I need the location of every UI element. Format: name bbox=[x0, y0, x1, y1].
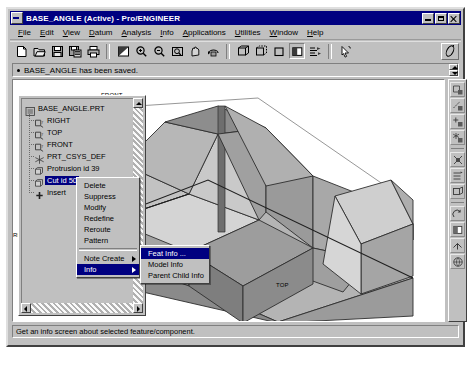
new-file-icon[interactable] bbox=[13, 43, 29, 59]
repaint-icon[interactable] bbox=[115, 43, 131, 59]
tree-item-protrusion[interactable]: Protrusion id 39 bbox=[25, 162, 129, 174]
tree-item-right[interactable]: 7 RIGHT bbox=[25, 114, 129, 126]
menu-info-rest: nfo bbox=[163, 28, 174, 37]
toolbar-group-select bbox=[334, 43, 356, 59]
menu-edit[interactable]: Edit bbox=[36, 27, 59, 38]
menu-utilities[interactable]: Utilities bbox=[231, 27, 266, 38]
context-menu-item-delete[interactable]: Delete bbox=[77, 180, 139, 191]
context-menu-separator bbox=[79, 248, 137, 251]
tree-item-label: RIGHT bbox=[45, 116, 70, 125]
open-folder-icon[interactable] bbox=[31, 43, 47, 59]
spin-icon[interactable] bbox=[205, 43, 221, 59]
context-menu-item-info[interactable]: Info bbox=[77, 264, 139, 275]
feature-icon bbox=[34, 163, 45, 174]
menu-datum-rest: atum bbox=[95, 28, 113, 37]
menu-analysis-rest: nalysis bbox=[127, 28, 151, 37]
save-icon[interactable] bbox=[49, 43, 65, 59]
tree-item-top[interactable]: 7 TOP bbox=[25, 126, 129, 138]
layer-icon[interactable] bbox=[307, 43, 323, 59]
context-menu-item-modify[interactable]: Modify bbox=[77, 202, 139, 213]
menu-applications-rest: pplications bbox=[188, 28, 226, 37]
scroll-up-arrow[interactable] bbox=[133, 98, 143, 108]
tree-item-front[interactable]: 7 FRONT bbox=[25, 138, 129, 150]
right-toolbar bbox=[448, 79, 467, 322]
toolbar-separator-2 bbox=[226, 44, 230, 59]
datum-csys-display-icon[interactable] bbox=[450, 130, 465, 145]
tree-item-label: Protrusion id 39 bbox=[45, 164, 100, 173]
submenu-label: Model Info bbox=[148, 260, 183, 269]
context-menu-label: Note Create bbox=[84, 254, 124, 263]
tree-item-label: Insert bbox=[45, 188, 66, 197]
menu-help[interactable]: Help bbox=[303, 27, 328, 38]
datum-plane-display-icon[interactable] bbox=[450, 82, 465, 97]
layer-display-icon[interactable] bbox=[450, 168, 465, 183]
environment-icon[interactable] bbox=[450, 254, 465, 269]
maximize-button[interactable] bbox=[435, 13, 447, 24]
scroll-right-arrow[interactable] bbox=[133, 303, 143, 313]
status-bar-text: Get an info screen about selected featur… bbox=[16, 327, 195, 336]
tree-guide bbox=[25, 150, 34, 162]
submenu-item-model-info[interactable]: Model Info bbox=[141, 259, 209, 270]
menu-window[interactable]: Window bbox=[266, 27, 303, 38]
context-menu-item-note-create[interactable]: Note Create bbox=[77, 253, 139, 264]
scroll-down-arrow[interactable] bbox=[449, 70, 458, 76]
minimize-button[interactable] bbox=[422, 13, 434, 24]
pen-annotate-icon[interactable] bbox=[441, 43, 459, 60]
right-toolbar-separator-1 bbox=[451, 148, 464, 149]
menu-view[interactable]: View bbox=[59, 27, 85, 38]
hidden-line-icon[interactable] bbox=[253, 43, 269, 59]
menu-info[interactable]: Info bbox=[156, 27, 178, 38]
menu-utilities-rest: tilities bbox=[241, 28, 261, 37]
system-menu-icon[interactable] bbox=[11, 12, 23, 24]
submenu-item-feat-info[interactable]: Feat Info ... bbox=[141, 248, 209, 259]
context-menu-item-reroute[interactable]: Reroute bbox=[77, 224, 139, 235]
scroll-left-arrow[interactable] bbox=[21, 303, 31, 313]
pan-icon[interactable] bbox=[187, 43, 203, 59]
toolbar-separator-3 bbox=[328, 44, 332, 59]
shade-view-icon[interactable] bbox=[450, 222, 465, 237]
save-as-icon[interactable] bbox=[67, 43, 83, 59]
menu-datum[interactable]: Datum bbox=[85, 27, 118, 38]
submenu-label: Feat Info ... bbox=[148, 249, 186, 258]
context-menu-item-suppress[interactable]: Suppress bbox=[77, 191, 139, 202]
saved-view-icon[interactable] bbox=[450, 184, 465, 199]
toolbar-separator-1 bbox=[106, 44, 110, 59]
zoom-window-icon[interactable] bbox=[169, 43, 185, 59]
svg-text:7: 7 bbox=[41, 144, 44, 149]
shading-icon[interactable] bbox=[289, 43, 305, 59]
feature-context-menu[interactable]: Delete Suppress Modify Redefine Reroute … bbox=[76, 177, 140, 278]
print-icon[interactable] bbox=[85, 43, 101, 59]
info-submenu[interactable]: Feat Info ... Model Info Parent Child In… bbox=[140, 245, 210, 284]
no-hidden-icon[interactable] bbox=[271, 43, 287, 59]
insert-marker-icon bbox=[34, 187, 45, 198]
spin-center-icon[interactable] bbox=[450, 152, 465, 167]
select-arrow-icon[interactable] bbox=[337, 43, 353, 59]
title-bar: BASE_ANGLE (Active) - Pro/ENGINEER bbox=[10, 11, 461, 25]
menu-applications[interactable]: Applications bbox=[179, 27, 231, 38]
wireframe-icon[interactable] bbox=[235, 43, 251, 59]
datum-point-display-icon[interactable] bbox=[450, 114, 465, 129]
submenu-item-parent-child-info[interactable]: Parent Child Info bbox=[141, 270, 209, 281]
zoom-out-icon[interactable] bbox=[151, 43, 167, 59]
context-menu-item-pattern[interactable]: Pattern bbox=[77, 235, 139, 246]
tree-item-csys[interactable]: PRT_CSYS_DEF bbox=[25, 150, 129, 162]
datum-axis-display-icon[interactable] bbox=[450, 98, 465, 113]
scroll-track[interactable] bbox=[31, 303, 133, 313]
screenshot-root: BASE_ANGLE (Active) - Pro/ENGINEER File … bbox=[0, 0, 471, 371]
close-button[interactable] bbox=[448, 13, 460, 24]
tree-item-part[interactable]: BASE_ANGLE.PRT bbox=[25, 102, 129, 114]
message-bar: BASE_ANGLE has been saved. bbox=[12, 63, 459, 77]
menu-analysis[interactable]: Analysis bbox=[118, 27, 157, 38]
right-toolbar-separator-2 bbox=[451, 202, 464, 203]
repaint-view-icon[interactable] bbox=[450, 206, 465, 221]
context-menu-item-redefine[interactable]: Redefine bbox=[77, 213, 139, 224]
zoom-in-icon[interactable] bbox=[133, 43, 149, 59]
menu-file[interactable]: File bbox=[14, 27, 36, 38]
model-tree-horizontal-scrollbar[interactable] bbox=[21, 303, 143, 313]
tree-item-label: FRONT bbox=[45, 140, 73, 149]
reorient-view-icon[interactable] bbox=[450, 238, 465, 253]
bullet-icon bbox=[17, 69, 20, 72]
message-scrollbar[interactable] bbox=[449, 64, 458, 76]
context-menu-label: Modify bbox=[84, 203, 106, 212]
context-menu-label: Suppress bbox=[84, 192, 116, 201]
